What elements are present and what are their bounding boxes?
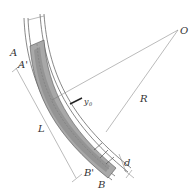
label-section-A-prime: A' [17,59,28,70]
label-length-L: L [37,123,45,134]
channel-diagram: O R A A' L B' B d y 0 [0,0,192,191]
offset-marker [70,98,82,104]
label-section-B-prime: B' [83,167,94,178]
label-section-A: A [9,47,17,58]
radius-line-lower [106,30,178,132]
label-center-O: O [180,25,188,36]
top-tick [28,16,44,20]
label-section-B: B [97,179,105,190]
label-thickness-d: d [124,157,130,168]
lining-body [30,40,116,178]
label-radius-R: R [139,93,148,104]
label-offset-sub: 0 [89,101,93,107]
radius-line-upper [52,30,178,100]
segment-divider [100,150,108,158]
length-tick-bottom [72,174,82,182]
